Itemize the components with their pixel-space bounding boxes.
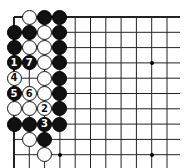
black-stone-move-5[interactable]: 5: [7, 86, 22, 101]
white-stone[interactable]: [37, 86, 52, 101]
star-point: [150, 153, 154, 157]
black-stone[interactable]: [37, 132, 52, 147]
black-stone[interactable]: [22, 25, 37, 40]
black-stone-move-1[interactable]: 1: [7, 55, 22, 70]
black-stone[interactable]: [22, 117, 37, 132]
black-stone[interactable]: [52, 10, 67, 25]
black-stone[interactable]: [52, 71, 67, 86]
go-board[interactable]: 1745623: [0, 0, 189, 168]
star-point: [150, 61, 154, 65]
white-stone-move-4[interactable]: 4: [7, 71, 22, 86]
black-stone[interactable]: [52, 117, 67, 132]
white-stone[interactable]: [22, 132, 37, 147]
white-stone[interactable]: [7, 101, 22, 116]
star-point: [58, 153, 62, 157]
black-stone[interactable]: [37, 10, 52, 25]
white-stone[interactable]: [22, 40, 37, 55]
black-stone[interactable]: [7, 40, 22, 55]
white-stone[interactable]: [22, 101, 37, 116]
white-stone[interactable]: [37, 25, 52, 40]
black-stone[interactable]: [7, 25, 22, 40]
white-stone[interactable]: [37, 71, 52, 86]
white-stone-move-6[interactable]: 6: [22, 86, 37, 101]
black-stone-move-3[interactable]: 3: [37, 117, 52, 132]
black-stone[interactable]: [7, 117, 22, 132]
white-stone[interactable]: [22, 10, 37, 25]
